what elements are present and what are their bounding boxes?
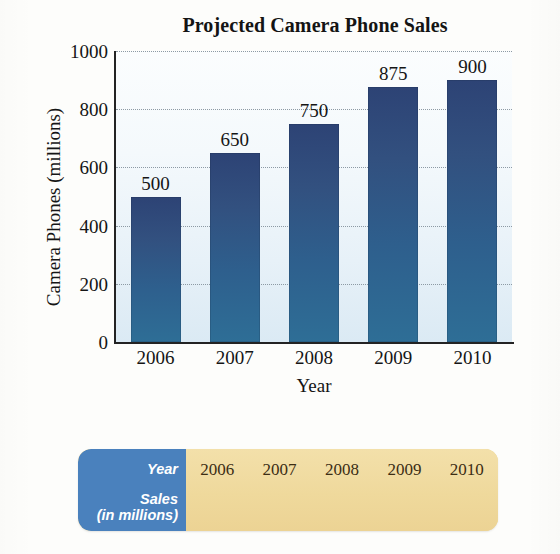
y-tick-1000: 1000 xyxy=(48,42,108,61)
x-axis-line xyxy=(114,342,514,344)
x-axis-title: Year xyxy=(115,375,513,397)
x-tick-2007: 2007 xyxy=(195,348,275,367)
bar-value-2010: 900 xyxy=(432,57,512,76)
table-year-cell-2007: 2007 xyxy=(250,459,310,480)
table-sales-cell-2009[interactable] xyxy=(374,493,434,517)
table-sales-row[interactable] xyxy=(186,493,498,521)
bar-2008 xyxy=(289,124,339,342)
x-tick-2010: 2010 xyxy=(432,348,512,367)
bar-2010 xyxy=(447,80,497,342)
table-year-cell-2008: 2008 xyxy=(312,459,372,480)
plot-area xyxy=(116,51,512,342)
table-sales-cell-2007[interactable] xyxy=(250,493,310,517)
y-axis-tick-labels: 02004006008001000 xyxy=(42,51,108,342)
bar-value-2009: 875 xyxy=(353,64,433,83)
bar-2007 xyxy=(210,153,260,342)
y-tick-400: 400 xyxy=(48,217,108,236)
chart-title: Projected Camera Phone Sales xyxy=(115,14,515,37)
bar-value-2007: 650 xyxy=(195,130,275,149)
table-sales-cell-2006[interactable] xyxy=(187,493,247,517)
x-tick-2009: 2009 xyxy=(353,348,433,367)
x-axis-tick-labels: 20062007200820092010 xyxy=(116,348,512,374)
bar-2006 xyxy=(131,197,181,343)
table-label-column: Year Sales (in millions) xyxy=(78,449,186,531)
bar-value-2008: 750 xyxy=(274,101,354,120)
bar-2009 xyxy=(368,87,418,342)
table-row-label-sales: Sales (in millions) xyxy=(78,491,178,523)
table-year-cell-2010: 2010 xyxy=(437,459,497,480)
table-year-cell-2009: 2009 xyxy=(374,459,434,480)
x-tick-2006: 2006 xyxy=(116,348,196,367)
chart-figure: Projected Camera Phone Sales Camera Phon… xyxy=(0,0,560,554)
y-tick-600: 600 xyxy=(48,158,108,177)
table-row-label-year: Year xyxy=(78,461,178,477)
x-tick-2008: 2008 xyxy=(274,348,354,367)
table-year-cell-2006: 2006 xyxy=(187,459,247,480)
table-row-label-sales-line2: (in millions) xyxy=(97,507,178,523)
data-table: Year Sales (in millions) 200620072008200… xyxy=(78,449,498,531)
table-sales-cell-2008[interactable] xyxy=(312,493,372,517)
y-tick-0: 0 xyxy=(48,333,108,352)
table-value-column: 20062007200820092010 xyxy=(186,449,498,531)
y-tick-800: 800 xyxy=(48,100,108,119)
table-row-label-sales-line1: Sales xyxy=(140,491,178,507)
y-axis-line xyxy=(114,51,116,343)
bar-value-2006: 500 xyxy=(116,174,196,193)
gridline-1000 xyxy=(116,51,512,52)
table-sales-cell-2010[interactable] xyxy=(437,493,497,517)
y-tick-200: 200 xyxy=(48,275,108,294)
table-year-row: 20062007200820092010 xyxy=(186,459,498,483)
